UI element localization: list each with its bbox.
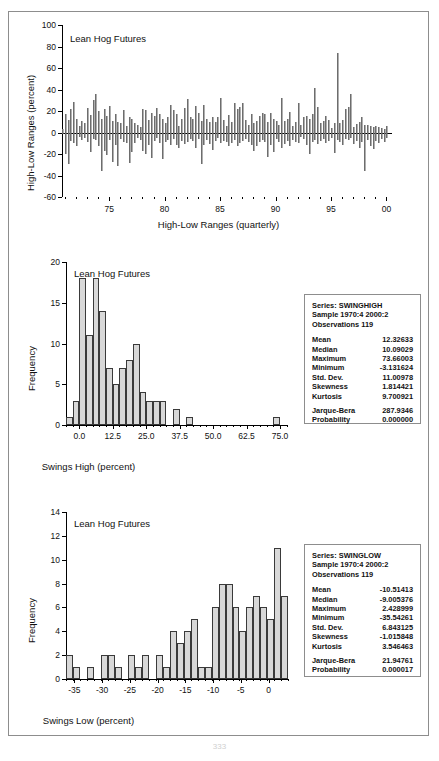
fig3-stat-key: Maximum bbox=[312, 604, 352, 613]
fig3-x-tick bbox=[130, 679, 131, 683]
fig2-y-tick bbox=[62, 303, 66, 304]
fig2-series-label: Series: SWINGHIGH bbox=[312, 301, 413, 310]
fig3-x-tick-minor bbox=[281, 679, 282, 681]
fig1-x-tick-minor bbox=[154, 197, 155, 199]
fig3-x-tick-minor bbox=[101, 679, 102, 681]
fig3-histogram-bar bbox=[101, 655, 108, 679]
fig3-histogram-bar bbox=[267, 619, 274, 679]
fig3-histogram-bar bbox=[142, 655, 149, 679]
fig2-x-tick-minor bbox=[133, 425, 134, 427]
fig3-x-tick-minor bbox=[288, 679, 289, 681]
fig2-stat-row: Maximum73.66003 bbox=[312, 354, 413, 363]
fig1-y-tick bbox=[58, 111, 62, 112]
fig3-statistics-box: Series: SWINGLOW Sample 1970:4 2000:2 Ob… bbox=[304, 544, 421, 677]
fig1-y-tick-label: 80 bbox=[26, 43, 56, 52]
fig3-sample-label: Sample 1970:4 2000:2 bbox=[312, 560, 413, 569]
fig3-histogram-bar bbox=[205, 667, 212, 679]
fig3-x-tick-minor bbox=[267, 679, 268, 681]
fig2-x-tick-minor bbox=[240, 425, 241, 427]
fig3-y-tick-label: 10 bbox=[34, 556, 60, 565]
fig3-histogram-bar bbox=[66, 655, 73, 679]
fig3-histogram-bar bbox=[73, 667, 80, 679]
fig1-x-tick-minor bbox=[65, 197, 66, 199]
fig2-x-tick-minor bbox=[153, 425, 154, 427]
fig2-x-tick-minor bbox=[287, 425, 288, 427]
fig2-x-tick-label: 0.0 bbox=[61, 432, 97, 441]
fig1-y-tick-label: 100 bbox=[26, 21, 56, 30]
fig3-histogram-bar bbox=[128, 655, 135, 679]
fig2-x-tick-minor bbox=[200, 425, 201, 427]
fig2-stat-key: Kurtosis bbox=[312, 392, 348, 401]
fig1-x-tick bbox=[220, 197, 221, 201]
fig3-stat-row: Maximum2.428999 bbox=[312, 604, 413, 613]
fig3-stat-row: Median-9.005376 bbox=[312, 595, 413, 604]
fig3-x-tick-minor bbox=[135, 679, 136, 681]
fig3-histogram-bar bbox=[115, 667, 122, 679]
fig1-x-tick-minor bbox=[76, 197, 77, 199]
fig3-histogram-bar bbox=[239, 631, 246, 679]
fig3-y-tick-label: 6 bbox=[34, 603, 60, 612]
fig1-y-tick bbox=[58, 176, 62, 177]
fig1-y-tick-label: 0 bbox=[26, 129, 56, 138]
fig1-x-axis-title: High-Low Ranges (quarterly) bbox=[8, 219, 429, 230]
fig3-x-tick-minor bbox=[108, 679, 109, 681]
fig2-histogram-bar bbox=[146, 401, 153, 425]
fig2-stat-value: 73.66003 bbox=[382, 354, 413, 363]
fig2-test-row: Probability0.000000 bbox=[312, 415, 413, 424]
fig3-stat-value: -9.005376 bbox=[380, 595, 413, 604]
fig3-histogram-bar bbox=[233, 607, 240, 679]
fig3-x-tick-minor bbox=[163, 679, 164, 681]
fig2-x-tick-minor bbox=[233, 425, 234, 427]
fig3-x-tick-minor bbox=[274, 679, 275, 681]
fig2-y-tick-label: 10 bbox=[34, 340, 60, 349]
fig2-histogram-bar bbox=[186, 417, 193, 425]
fig2-x-tick-minor bbox=[126, 425, 127, 427]
fig1-x-tick bbox=[331, 197, 332, 201]
fig2-x-tick-label: 12.5 bbox=[95, 432, 131, 441]
fig2-stat-value: 1.814421 bbox=[382, 382, 413, 391]
fig2-x-tick-minor bbox=[193, 425, 194, 427]
fig1-x-tick-minor bbox=[264, 197, 265, 199]
fig3-y-tick bbox=[62, 631, 66, 632]
fig3-x-tick-minor bbox=[73, 679, 74, 681]
fig2-stat-value: 9.700921 bbox=[382, 392, 413, 401]
fig1-x-tick-label: 00 bbox=[372, 205, 400, 214]
fig2-x-tick bbox=[146, 425, 147, 429]
fig1-x-tick-minor bbox=[87, 197, 88, 199]
fig3-x-tick-minor bbox=[80, 679, 81, 681]
fig3-histogram-bar bbox=[170, 631, 177, 679]
fig2-observations-label: Observations 119 bbox=[312, 320, 413, 329]
fig3-stat-row: Kurtosis3.546463 bbox=[312, 642, 413, 651]
fig3-x-tick-minor bbox=[239, 679, 240, 681]
fig2-x-tick bbox=[113, 425, 114, 429]
fig2-x-tick-minor bbox=[173, 425, 174, 427]
fig2-histogram-bar bbox=[99, 311, 106, 425]
fig2-histogram-bar bbox=[140, 392, 147, 425]
fig2-histogram-bar bbox=[173, 409, 180, 425]
fig3-x-tick-minor bbox=[156, 679, 157, 681]
fig2-y-tick bbox=[62, 344, 66, 345]
fig2-y-tick bbox=[62, 384, 66, 385]
fig2-y-tick-label: 5 bbox=[34, 380, 60, 389]
fig2-x-tick-label: 25.0 bbox=[128, 432, 164, 441]
fig3-stat-key: Mean bbox=[312, 585, 337, 594]
fig3-y-tick bbox=[62, 512, 66, 513]
fig2-x-tick-minor bbox=[140, 425, 141, 427]
fig2-x-tick-minor bbox=[206, 425, 207, 427]
fig3-histogram-bar bbox=[163, 667, 170, 679]
fig3-histogram-bar bbox=[274, 548, 281, 679]
fig3-y-tick bbox=[62, 536, 66, 537]
fig2-x-tick-minor bbox=[260, 425, 261, 427]
fig1-x-tick-minor bbox=[187, 197, 188, 199]
fig1-x-tick-minor bbox=[242, 197, 243, 199]
fig3-x-tick bbox=[269, 679, 270, 683]
fig2-stat-row: Std. Dev.11.00978 bbox=[312, 373, 413, 382]
fig2-x-axis-title: Swings High (percent) bbox=[0, 461, 299, 472]
fig3-x-tick-minor bbox=[191, 679, 192, 681]
fig3-stat-key: Median bbox=[312, 595, 343, 604]
fig1-x-tick-label: 80 bbox=[151, 205, 179, 214]
fig1-x-tick-minor bbox=[353, 197, 354, 199]
fig3-x-tick-minor bbox=[128, 679, 129, 681]
fig2-sample-label: Sample 1970:4 2000:2 bbox=[312, 310, 413, 319]
fig2-stat-row: Kurtosis9.700921 bbox=[312, 392, 413, 401]
